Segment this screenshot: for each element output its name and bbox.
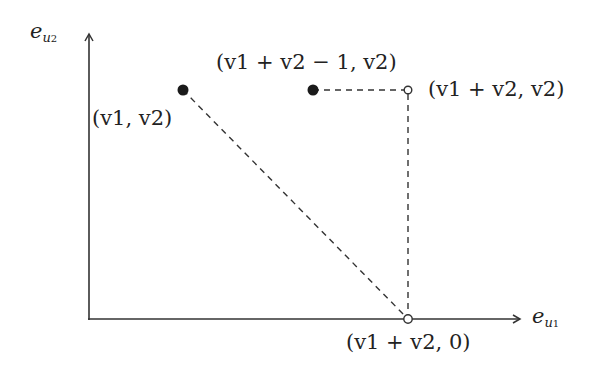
point-label-p3: (v1 + v2, v2) — [428, 79, 564, 100]
edge-p1-p4 — [183, 90, 408, 319]
point-label-p1: (v1, v2) — [92, 108, 172, 129]
x-axis-label: eu1 — [532, 306, 559, 329]
point-p3 — [404, 86, 412, 94]
point-p2 — [308, 85, 319, 96]
point-label-p4: (v1 + v2, 0) — [346, 332, 471, 353]
diagram-canvas: eu2 eu1 (v1, v2) (v1 + v2 − 1, v2) (v1 +… — [0, 0, 600, 372]
point-label-p2: (v1 + v2 − 1, v2) — [216, 52, 397, 73]
point-p1 — [178, 85, 189, 96]
point-p4 — [404, 315, 412, 323]
y-axis-label: eu2 — [30, 21, 57, 44]
